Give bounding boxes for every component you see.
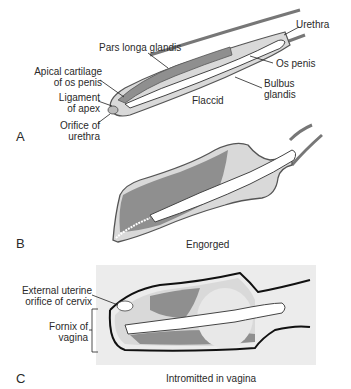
panel-b-caption: Engorged [186, 239, 229, 250]
panel-c-letter: C [16, 371, 25, 386]
panel-a-letter: A [16, 129, 25, 144]
panel-c-illustration [96, 265, 316, 365]
label-fornix-of-vagina: Fornix of vagina [30, 321, 88, 343]
label-urethra: Urethra [296, 19, 329, 30]
label-ligament-of-apex: Ligament of apex [40, 92, 100, 114]
label-orifice-of-urethra: Orifice of urethra [40, 120, 100, 142]
label-external-uterine-orifice: External uterine orifice of cervix [10, 285, 92, 307]
label-pars-longa-glandis: Pars longa glandis [99, 42, 181, 53]
label-apical-cartilage: Apical cartilage of os penis [30, 66, 102, 88]
panel-b-letter: B [16, 236, 25, 251]
panel-b-illustration [113, 125, 322, 242]
label-bulbus-glandis: Bulbus glandis [264, 78, 296, 100]
label-os-penis: Os penis [276, 58, 315, 69]
panel-a-caption: Flaccid [192, 95, 224, 106]
panel-c-caption: Intromitted in vagina [166, 373, 256, 384]
